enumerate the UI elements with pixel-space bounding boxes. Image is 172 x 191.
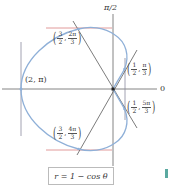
theta-denominator: 3 — [71, 39, 75, 45]
label-point-5pi3: ( 12 , 5π3 ) — [126, 100, 157, 114]
r-denominator: 2 — [58, 39, 62, 45]
pole — [112, 88, 115, 91]
label-point-pi: (2, π) — [25, 76, 47, 84]
r-denominator: 2 — [132, 108, 136, 114]
point-pi — [20, 88, 23, 91]
r-denominator: 2 — [132, 70, 136, 76]
theta-denominator: 3 — [143, 70, 147, 76]
accent-marker — [165, 169, 168, 178]
equation-text: r = 1 − cos θ — [54, 172, 107, 181]
equation-box: r = 1 − cos θ — [48, 167, 114, 185]
label-point-pi3: ( 12 , π3 ) — [126, 62, 153, 76]
label-point-4pi3: ( 32 , 4π3 ) — [52, 126, 83, 140]
label-zero: 0 — [160, 85, 165, 93]
label-pi-over-2: π/2 — [104, 4, 117, 12]
point-4pi3 — [77, 148, 80, 151]
theta-denominator: 3 — [71, 134, 75, 140]
r-denominator: 2 — [58, 134, 62, 140]
label-point-2pi3: ( 32 , 2π3 ) — [52, 31, 83, 45]
cardioid-diagram — [0, 0, 172, 191]
theta-denominator: 3 — [145, 108, 149, 114]
